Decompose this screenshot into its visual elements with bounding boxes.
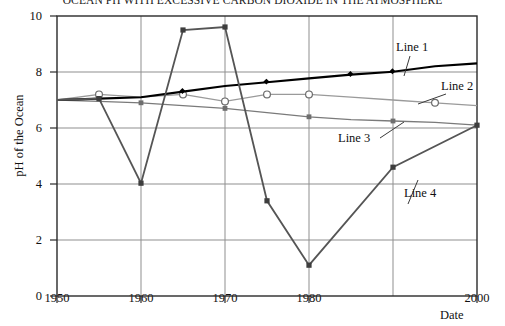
annotation-line-1: Line 1: [396, 40, 428, 55]
annotation-line-4: Line 4: [404, 186, 436, 201]
series-line-4-markers: [96, 24, 479, 267]
leader-line-1: [404, 56, 410, 76]
annotation-leader-lines: [380, 56, 446, 204]
series-line-2-markers: [96, 91, 439, 106]
annotation-line-3: Line 3: [338, 131, 370, 146]
series-line-3: [57, 100, 477, 125]
vertical-gridlines: [141, 16, 393, 296]
y-tick-marks: [50, 16, 57, 296]
annotation-line-2: Line 2: [441, 79, 473, 94]
series-line-4: [57, 24, 480, 267]
leader-line-3: [380, 122, 404, 138]
chart-root: OCEAN PH WITH EXCESSIVE CARBON DIOXIDE I…: [0, 0, 505, 326]
x-tick-marks: [57, 296, 477, 303]
plot-area: [0, 0, 505, 326]
